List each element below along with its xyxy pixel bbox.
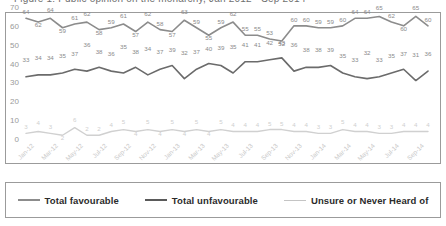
data-point-label: 64 bbox=[364, 9, 371, 15]
y-axis-tick-label: 60 bbox=[10, 21, 19, 30]
data-point-label: 35 bbox=[388, 53, 395, 59]
legend-swatch-icon bbox=[284, 200, 306, 201]
x-axis-tick-label: May-14 bbox=[356, 142, 376, 162]
data-point-label: 61 bbox=[120, 13, 127, 19]
data-point-label: 2 bbox=[85, 126, 88, 132]
legend-swatch-icon bbox=[145, 199, 167, 201]
data-point-label: 59 bbox=[59, 28, 66, 34]
data-point-label: 55 bbox=[242, 26, 249, 32]
data-point-label: 41 bbox=[242, 41, 249, 47]
data-point-label: 62 bbox=[388, 13, 395, 19]
data-point-label: 58 bbox=[96, 29, 103, 35]
data-point-label: 38 bbox=[96, 49, 103, 55]
x-axis-tick-label: Jan-13 bbox=[162, 142, 181, 161]
data-point-label: 55 bbox=[254, 26, 261, 32]
data-point-label: 4 bbox=[207, 131, 210, 137]
data-point-label: 42 bbox=[266, 40, 273, 46]
x-axis-tick-label: Nov-12 bbox=[137, 142, 157, 162]
data-point-label: 4 bbox=[402, 122, 405, 128]
data-point-label: 35 bbox=[59, 53, 66, 59]
data-point-label: 39 bbox=[327, 47, 334, 53]
y-axis-tick-label: 10 bbox=[10, 116, 19, 125]
data-point-label: 59 bbox=[327, 19, 334, 25]
data-point-label: 37 bbox=[157, 49, 164, 55]
data-point-label: 2 bbox=[97, 126, 100, 132]
data-point-label: 63 bbox=[181, 9, 188, 15]
x-axis-tick-label: Sep-13 bbox=[259, 142, 279, 162]
data-point-label: 6 bbox=[73, 116, 76, 122]
data-point-label: 36 bbox=[291, 42, 298, 48]
data-point-label: 40 bbox=[205, 45, 212, 51]
data-point-label: 58 bbox=[157, 20, 164, 26]
data-point-label: 34 bbox=[144, 46, 151, 52]
data-point-label: 57 bbox=[169, 31, 176, 37]
data-point-label: 32 bbox=[181, 49, 188, 55]
x-axis-tick-label: Jul-13 bbox=[237, 142, 254, 159]
data-point-label: 4 bbox=[134, 131, 137, 137]
legend-item[interactable]: Total unfavourable bbox=[145, 195, 258, 206]
data-point-label: 64 bbox=[23, 9, 30, 15]
data-point-label: 62 bbox=[83, 11, 90, 17]
legend-label: Total unfavourable bbox=[172, 195, 258, 206]
data-point-label: 38 bbox=[315, 47, 322, 53]
data-point-label: 4 bbox=[244, 122, 247, 128]
data-point-label: 60 bbox=[339, 17, 346, 23]
y-axis-tick-label: 30 bbox=[10, 78, 19, 87]
page-title: Figure 1: Public opinion on the monarchy… bbox=[14, 0, 306, 4]
legend-swatch-icon bbox=[18, 199, 40, 201]
y-axis-tick-label: 70 bbox=[10, 3, 19, 12]
data-point-label: 38 bbox=[303, 47, 310, 53]
x-axis: Jan-12Mar-12May-12Jul-12Sep-12Nov-12Jan-… bbox=[22, 142, 432, 176]
data-point-label: 4 bbox=[304, 122, 307, 128]
data-point-label: 4 bbox=[353, 122, 356, 128]
data-point-label: 4 bbox=[110, 122, 113, 128]
data-point-label: 53 bbox=[266, 30, 273, 36]
data-point-label: 3 bbox=[378, 124, 381, 130]
x-axis-tick-label: Sep-12 bbox=[113, 142, 133, 162]
x-axis-tick-label: Nov-13 bbox=[283, 142, 303, 162]
data-point-label: 33 bbox=[23, 57, 30, 63]
data-point-label: 62 bbox=[230, 11, 237, 17]
data-point-label: 4 bbox=[183, 131, 186, 137]
data-point-label: 41 bbox=[254, 41, 261, 47]
x-axis-tick-label: Jul-12 bbox=[91, 142, 108, 159]
data-point-label: 4 bbox=[426, 122, 429, 128]
chart-legend: Total favourableTotal unfavourableUnsure… bbox=[5, 182, 441, 218]
data-point-label: 60 bbox=[291, 17, 298, 23]
y-axis-tick-label: 50 bbox=[10, 40, 19, 49]
data-point-label: 34 bbox=[35, 55, 42, 61]
x-axis-tick-label: Mar-14 bbox=[332, 142, 351, 161]
data-point-label: 33 bbox=[351, 57, 358, 63]
data-point-label: 3 bbox=[24, 124, 27, 130]
data-point-label: 38 bbox=[132, 49, 139, 55]
data-point-label: 5 bbox=[219, 118, 222, 124]
data-point-label: 3 bbox=[317, 124, 320, 130]
data-point-label: 62 bbox=[35, 22, 42, 28]
legend-item[interactable]: Unsure or Never Heard of bbox=[284, 195, 429, 206]
x-axis-tick-label: May-13 bbox=[210, 142, 230, 162]
data-point-label: 35 bbox=[120, 44, 127, 50]
data-point-label: 4 bbox=[231, 122, 234, 128]
x-axis-tick-label: Mar-12 bbox=[40, 142, 59, 161]
legend-item[interactable]: Total favourable bbox=[18, 195, 119, 206]
data-point-label: 61 bbox=[71, 15, 78, 21]
data-point-label: 59 bbox=[108, 19, 115, 25]
data-point-label: 64 bbox=[351, 9, 358, 15]
data-point-label: 32 bbox=[364, 49, 371, 55]
data-point-label: 60 bbox=[425, 17, 432, 23]
data-point-label: 5 bbox=[195, 118, 198, 124]
data-point-label: 4 bbox=[36, 120, 39, 126]
y-axis-tick-label: 40 bbox=[10, 59, 19, 68]
x-axis-tick-label: Mar-13 bbox=[186, 142, 205, 161]
data-point-label: 43 bbox=[278, 40, 285, 46]
data-point-label: 4 bbox=[158, 131, 161, 137]
data-point-label: 31 bbox=[412, 51, 419, 57]
data-point-label: 62 bbox=[144, 11, 151, 17]
x-axis-tick-label: May-12 bbox=[64, 142, 84, 162]
y-axis-tick-label: 20 bbox=[10, 97, 19, 106]
data-point-label: 65 bbox=[376, 5, 383, 11]
data-point-label: 35 bbox=[339, 53, 346, 59]
data-point-label: 4 bbox=[414, 122, 417, 128]
data-point-label: 3 bbox=[49, 124, 52, 130]
data-point-label: 57 bbox=[132, 31, 139, 37]
